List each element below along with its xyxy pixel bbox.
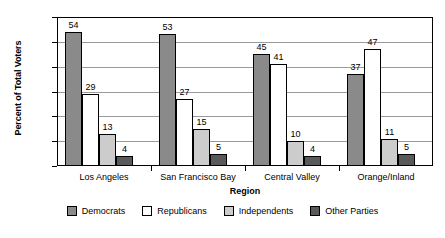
bar-value-label: 29 [78, 83, 103, 92]
bar [210, 154, 227, 166]
bar-value-label: 5 [394, 143, 419, 152]
legend-label: Other Parties [325, 206, 378, 216]
legend-item[interactable]: Independents [224, 206, 294, 216]
legend-label: Democrats [82, 206, 126, 216]
bar [304, 156, 321, 166]
bar [159, 34, 176, 166]
legend-swatch-icon [67, 206, 77, 216]
bar-value-label: 41 [266, 53, 291, 62]
bar-value-label: 10 [283, 130, 308, 139]
group-separator-tick [151, 166, 152, 171]
legend-label: Independents [239, 206, 294, 216]
grouped-bar-chart: Percent of Total Voters 0102030405060 54… [0, 0, 445, 238]
bar-value-label: 45 [249, 43, 274, 52]
bar-value-label: 54 [61, 21, 86, 30]
bar [398, 154, 415, 166]
bar [253, 54, 270, 166]
legend-item[interactable]: Democrats [67, 206, 126, 216]
bar-value-label: 27 [172, 88, 197, 97]
bar [347, 74, 364, 166]
y-tick-mark [52, 166, 57, 167]
bar-value-label: 13 [95, 123, 120, 132]
legend-swatch-icon [142, 206, 152, 216]
bar [364, 49, 381, 166]
legend-swatch-icon [310, 206, 320, 216]
bar-value-label: 53 [155, 23, 180, 32]
bar-value-label: 4 [112, 145, 137, 154]
bars-layer: 5429134532715545411043747115 [57, 17, 433, 166]
group-separator-tick [339, 166, 340, 171]
bar-value-label: 15 [189, 118, 214, 127]
chart-legend: DemocratsRepublicansIndependentsOther Pa… [0, 206, 445, 216]
bar [116, 156, 133, 166]
y-axis-title: Percent of Total Voters [13, 13, 23, 163]
legend-item[interactable]: Other Parties [310, 206, 378, 216]
bar-value-label: 5 [206, 143, 231, 152]
bar [176, 99, 193, 166]
x-tick-label: Orange/Inland [339, 172, 433, 183]
bar [270, 64, 287, 166]
x-tick-label: Central Valley [245, 172, 339, 183]
bar-value-label: 47 [360, 38, 385, 47]
legend-label: Republicans [157, 206, 207, 216]
x-axis-title: Region [57, 186, 433, 196]
legend-swatch-icon [224, 206, 234, 216]
legend-item[interactable]: Republicans [142, 206, 207, 216]
bar-value-label: 11 [377, 128, 402, 137]
x-tick-label: Los Angeles [57, 172, 151, 183]
group-separator-tick [245, 166, 246, 171]
bar [65, 32, 82, 166]
x-tick-label: San Francisco Bay [151, 172, 245, 183]
bar-value-label: 4 [300, 145, 325, 154]
